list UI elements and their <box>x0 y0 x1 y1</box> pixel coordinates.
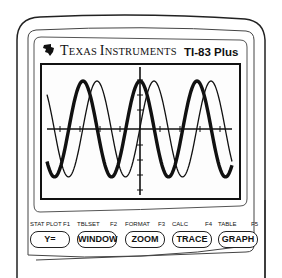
key-trace: CALCF4 TRACE <box>172 221 212 248</box>
graph-button[interactable]: GRAPH <box>218 231 258 248</box>
key-secondary-label: FORMAT <box>125 221 150 229</box>
brand-name: TEXAS INSTRUMENTS <box>60 43 177 59</box>
function-key-row: STAT PLOTF1 Y= TBLSETF2 WINDOW FORMATF3 … <box>30 221 262 255</box>
brand-letter: T <box>60 43 69 58</box>
key-function-label: F3 <box>158 221 165 229</box>
key-secondary-label: TBLSET <box>77 221 100 229</box>
key-graph: TABLEF5 GRAPH <box>218 221 258 248</box>
key-function-label: F2 <box>110 221 117 229</box>
brand-text: EXAS <box>69 46 100 57</box>
window-button[interactable]: WINDOW <box>77 231 117 248</box>
key-window: TBLSETF2 WINDOW <box>77 221 117 248</box>
ti-logo-icon <box>42 43 56 57</box>
key-zoom: FORMATF3 ZOOM <box>125 221 165 248</box>
y-equals-button[interactable]: Y= <box>30 231 70 248</box>
key-secondary-label: CALC <box>172 221 188 229</box>
key-function-label: F4 <box>205 221 212 229</box>
zoom-button[interactable]: ZOOM <box>125 231 165 248</box>
key-secondary-label: TABLE <box>218 221 237 229</box>
trace-button[interactable]: TRACE <box>172 231 212 248</box>
key-function-label: F5 <box>251 221 258 229</box>
brand-text: NSTRUMENTS <box>105 46 177 57</box>
key-secondary-label: STAT PLOT <box>30 221 62 229</box>
key-y-equals: STAT PLOTF1 Y= <box>30 221 70 248</box>
model-name: TI-83 Plus <box>184 46 238 58</box>
key-function-label: F1 <box>63 221 70 229</box>
